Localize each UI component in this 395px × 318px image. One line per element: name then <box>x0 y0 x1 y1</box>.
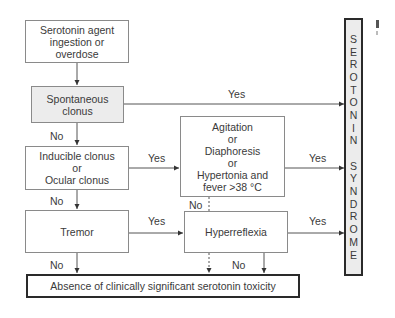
outcome-letter: O <box>349 71 357 84</box>
outcome-letter: N <box>350 134 358 147</box>
outcome-letter: M <box>349 236 358 249</box>
outcome-letter: N <box>350 185 358 198</box>
node-tremor-text: Tremor <box>60 226 93 238</box>
outcome-letter: T <box>350 84 356 97</box>
corner-mark-small <box>376 31 378 35</box>
outcome-letter: S <box>350 160 357 173</box>
corner-mark <box>376 20 379 28</box>
node-inducible-clonus: Inducible clonus or Ocular clonus <box>25 146 129 190</box>
node-hyperreflexia: Hyperreflexia <box>184 211 288 253</box>
outcome-letter: D <box>350 198 358 211</box>
label-inducible-no: No <box>50 195 63 207</box>
node-agitation: Agitation or Diaphoresis or Hypertonia a… <box>180 116 285 197</box>
outcome-letter: N <box>350 109 358 122</box>
label-inducible-yes: Yes <box>148 152 165 164</box>
node-start: Serotonin agent ingestion or overdose <box>25 20 129 63</box>
node-agitation-text: Agitation or Diaphoresis or Hypertonia a… <box>197 121 268 193</box>
outcome-letter: R <box>350 210 358 223</box>
node-absence-text: Absence of clinically significant seroto… <box>50 280 275 292</box>
node-spontaneous-text: Spontaneous clonus <box>47 93 109 117</box>
outcome-letter: O <box>349 223 357 236</box>
label-spontaneous-no: No <box>50 130 63 142</box>
label-agitation-no: No <box>189 199 202 211</box>
label-tremor-no: No <box>50 259 63 271</box>
label-hyperreflexia-no: No <box>232 259 245 271</box>
outcome-letter: R <box>350 58 358 71</box>
node-serotonin-syndrome: S E R O T O N I N S Y N D R O M E <box>344 18 363 276</box>
node-hyperreflexia-text: Hyperreflexia <box>205 226 267 238</box>
outcome-letter: E <box>350 249 357 262</box>
node-inducible-text: Inducible clonus or Ocular clonus <box>39 150 114 186</box>
outcome-letter: I <box>352 122 355 135</box>
outcome-letter: S <box>350 33 357 46</box>
outcome-letter: E <box>350 46 357 59</box>
node-spontaneous-clonus: Spontaneous clonus <box>31 86 124 123</box>
label-spontaneous-yes: Yes <box>228 88 245 100</box>
node-absence-of-toxicity: Absence of clinically significant seroto… <box>26 274 300 298</box>
node-start-text: Serotonin agent ingestion or overdose <box>40 24 114 60</box>
outcome-letter: O <box>349 96 357 109</box>
label-agitation-yes: Yes <box>309 152 326 164</box>
label-tremor-yes: Yes <box>148 215 165 227</box>
node-tremor: Tremor <box>25 210 129 253</box>
label-hyperreflexia-yes: Yes <box>309 215 326 227</box>
outcome-letter: Y <box>350 172 357 185</box>
